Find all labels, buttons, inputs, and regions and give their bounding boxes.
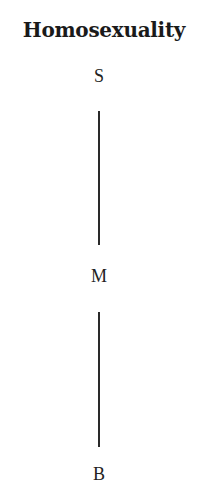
edge-s-to-m [98,111,100,245]
edge-m-to-b [98,312,100,447]
diagram-title: Homosexuality [0,18,208,42]
node-b-label: B [79,464,119,485]
node-m-label: M [79,266,119,287]
node-s-label: S [79,66,119,87]
